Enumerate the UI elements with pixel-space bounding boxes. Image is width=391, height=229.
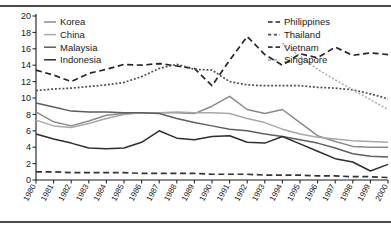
y-tick-label: 8: [26, 110, 31, 120]
x-tick-label: 1983: [74, 182, 91, 202]
x-tick-label: 1991: [215, 182, 232, 202]
y-tick-label: 4: [26, 142, 31, 152]
legend-label-philippines: Philippines: [284, 16, 330, 27]
x-tick-label: 1997: [321, 182, 338, 202]
x-tick-label: 1980: [21, 182, 38, 202]
series-line-china: [36, 112, 388, 142]
y-tick-label: 6: [26, 126, 31, 136]
line-chart-svg: 0246810121416182019801981198219831984198…: [0, 8, 391, 220]
legend-label-korea: Korea: [60, 16, 86, 27]
x-tick-label: 1982: [57, 182, 74, 202]
x-tick-label: 1990: [197, 182, 214, 202]
x-tick-label: 1995: [285, 182, 302, 202]
series-line-indonesia: [36, 131, 388, 171]
x-tick-label: 1988: [162, 182, 179, 202]
series-line-singapore: [282, 43, 388, 109]
bottom-divider-rule: [0, 221, 391, 223]
x-tick-label: 1985: [109, 182, 126, 202]
x-tick-label: 1999: [356, 182, 373, 202]
x-tick-label: 1989: [180, 182, 197, 202]
legend-label-malaysia: Malaysia: [60, 42, 98, 53]
y-tick-label: 16: [21, 44, 31, 54]
y-tick-label: 20: [21, 11, 31, 21]
x-tick-label: 1984: [92, 182, 109, 202]
x-tick-label: 1987: [145, 182, 162, 202]
x-tick-label: 1993: [250, 182, 267, 202]
legend-label-vietnam: Vietnam: [284, 42, 319, 53]
series-line-vietnam: [36, 172, 388, 178]
x-tick-label: 1986: [127, 182, 144, 202]
y-tick-label: 18: [21, 28, 31, 38]
x-tick-label: 1998: [338, 182, 355, 202]
chart-figure: 0246810121416182019801981198219831984198…: [0, 0, 391, 229]
y-tick-label: 2: [26, 159, 31, 169]
legend-label-china: China: [60, 29, 86, 40]
legend-label-thailand: Thailand: [284, 29, 320, 40]
plot-area: 0246810121416182019801981198219831984198…: [0, 8, 391, 220]
y-tick-label: 14: [21, 60, 31, 70]
legend-label-indonesia: Indonesia: [60, 54, 102, 65]
legend-label-singapore: Singapore: [284, 54, 327, 65]
x-tick-label: 1981: [39, 182, 56, 202]
y-tick-label: 10: [21, 93, 31, 103]
x-tick-label: 1996: [303, 182, 320, 202]
series-line-malaysia: [36, 103, 388, 157]
y-tick-label: 12: [21, 77, 31, 87]
x-tick-label: 1994: [268, 182, 285, 202]
x-tick-label: 2000: [373, 182, 390, 202]
series-line-thailand: [36, 64, 388, 98]
x-tick-label: 1992: [233, 182, 250, 202]
top-divider-rule: [0, 5, 391, 7]
